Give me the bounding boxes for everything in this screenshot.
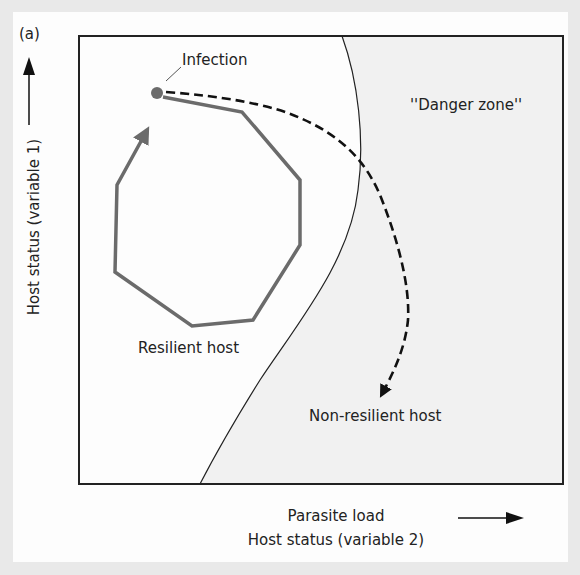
infection-leader-line [166,67,181,81]
y-axis-arrowhead-icon [23,57,35,75]
x-axis-label-line2: Host status (variable 2) [248,531,424,549]
infection-label: Infection [182,51,247,69]
infection-point [151,87,163,99]
diagram-canvas: (a) Infection ''Danger zone'' Resilient … [0,0,580,575]
x-axis-label-line1: Parasite load [288,507,385,525]
non-resilient-host-label: Non-resilient host [309,407,442,425]
x-axis-arrowhead-icon [506,512,524,524]
y-axis-label: Host status (variable 1) [25,139,43,315]
resilient-host-path [115,97,300,326]
resilient-host-label: Resilient host [138,339,239,357]
panel-label: (a) [19,25,40,43]
danger-zone-label: ''Danger zone'' [410,96,522,114]
